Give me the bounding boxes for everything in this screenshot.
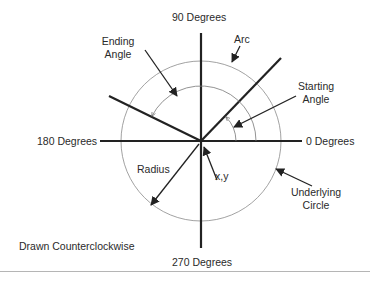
label-0-degrees: 0 Degrees [306, 135, 354, 148]
label-underlying-line2: Circle [286, 199, 346, 212]
label-270-degrees: 270 Degrees [172, 256, 232, 269]
arc-pointer [232, 46, 240, 62]
label-arc: Arc [234, 33, 250, 46]
starting-angle-pointer [234, 96, 296, 127]
label-90-degrees: 90 Degrees [172, 11, 226, 24]
label-radius: Radius [137, 163, 170, 176]
underlying-circle-pointer [276, 169, 312, 186]
label-ending-angle-line1: Ending [98, 35, 138, 48]
ending-angle-pointer [145, 50, 177, 96]
label-starting-angle-line2: Angle [294, 93, 338, 106]
label-ending-angle-line2: Angle [98, 48, 138, 61]
ending-ray [109, 96, 201, 141]
label-180-degrees: 180 Degrees [37, 135, 97, 148]
label-ending-angle: Ending Angle [98, 35, 138, 61]
label-underlying-line1: Underlying [286, 186, 346, 199]
starting-angle-arc [226, 117, 236, 141]
label-starting-angle: Starting Angle [294, 80, 338, 106]
label-drawn-counterclockwise: Drawn Counterclockwise [19, 240, 135, 253]
bottom-divider [0, 271, 370, 272]
ending-angle-arc [152, 86, 256, 141]
label-starting-angle-line1: Starting [294, 80, 338, 93]
label-underlying-circle: Underlying Circle [286, 186, 346, 212]
label-xy: x,y [215, 170, 228, 183]
